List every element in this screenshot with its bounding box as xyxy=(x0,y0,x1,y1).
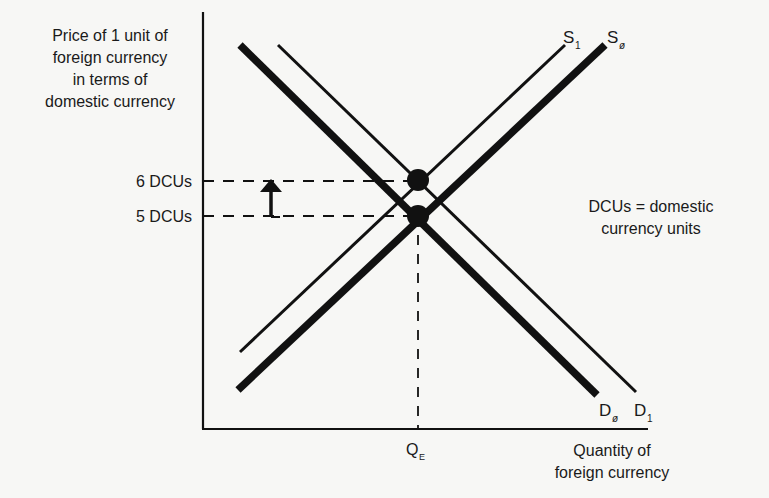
label-d1: D 1 xyxy=(634,401,653,424)
label-d0-subscript: ø xyxy=(612,413,618,424)
label-d0: D ø xyxy=(599,401,618,424)
supply-demand-chart: Price of 1 unit of foreign currency in t… xyxy=(0,0,769,498)
x-tick-qe-subscript: E xyxy=(419,452,425,462)
y-axis-label-line-4: domestic currency xyxy=(45,93,175,110)
x-tick-qe: Q E xyxy=(406,441,425,462)
demand-curve-d1 xyxy=(278,45,636,392)
label-s1-letter: S xyxy=(563,28,574,47)
x-tick-qe-letter: Q xyxy=(406,441,418,458)
label-s1-subscript: 1 xyxy=(575,40,581,51)
label-s0-letter: S xyxy=(607,28,618,47)
note-line-1: DCUs = domestic xyxy=(589,198,714,215)
label-s0: S ø xyxy=(607,28,625,51)
y-tick-5-dcus: 5 DCUs xyxy=(136,208,192,225)
equilibrium-point-new xyxy=(407,169,429,191)
y-tick-6-dcus: 6 DCUs xyxy=(136,173,192,190)
x-axis-label: Quantity of foreign currency xyxy=(555,442,670,481)
y-axis-label-line-2: foreign currency xyxy=(53,49,168,66)
equilibrium-point-initial xyxy=(407,205,429,227)
y-axis-label-line-3: in terms of xyxy=(73,71,148,88)
label-d0-letter: D xyxy=(599,401,611,420)
x-axis-label-line-2: foreign currency xyxy=(555,464,670,481)
y-axis-label-line-1: Price of 1 unit of xyxy=(52,27,168,44)
label-d1-letter: D xyxy=(634,401,646,420)
label-d1-subscript: 1 xyxy=(647,413,653,424)
note-line-2: currency units xyxy=(601,220,701,237)
arrow-up-icon xyxy=(260,179,282,217)
label-s0-subscript: ø xyxy=(619,40,625,51)
y-axis-label: Price of 1 unit of foreign currency in t… xyxy=(45,27,175,110)
x-axis-label-line-1: Quantity of xyxy=(573,442,651,459)
dcus-definition-note: DCUs = domestic currency units xyxy=(589,198,714,237)
label-s1: S 1 xyxy=(563,28,581,51)
